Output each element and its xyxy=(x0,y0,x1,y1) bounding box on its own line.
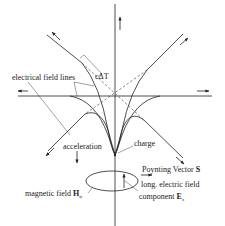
magnetic-leader xyxy=(88,187,93,193)
radiation-diagram: cΔT electrical field lines charge accele… xyxy=(0,0,225,226)
upper-left-arrow-icon xyxy=(52,32,60,40)
long-field-label-line2: component Ez xyxy=(139,192,185,202)
magnetic-field-loop xyxy=(86,171,138,191)
acceleration-label: acceleration xyxy=(63,142,102,151)
upper-right-arrow-icon xyxy=(180,38,188,45)
dashed-lines xyxy=(82,63,147,121)
field-lines-leader xyxy=(74,82,94,86)
charge-label: charge xyxy=(134,139,156,148)
charge-point xyxy=(114,154,116,156)
long-field-label-line1: long. electric field xyxy=(141,180,199,189)
field-lines-leader xyxy=(28,82,70,135)
charge-leader xyxy=(118,146,133,153)
field-lines-leader xyxy=(74,82,77,96)
vertical-axis xyxy=(115,4,120,226)
poynting-label: Poynting Vector S xyxy=(142,165,201,174)
field-lines-label: electrical field lines xyxy=(12,73,75,82)
magnetic-label: magnetic field Hφ xyxy=(25,189,82,199)
c-delta-t-label: cΔT xyxy=(95,72,109,81)
